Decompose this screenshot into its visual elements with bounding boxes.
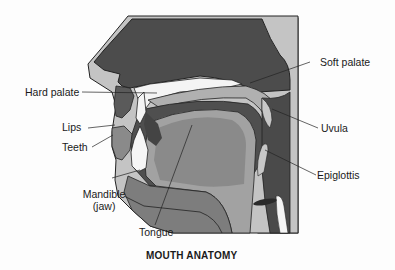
- label-uvula: Uvula: [321, 122, 348, 134]
- label-soft-palate: Soft palate: [320, 56, 370, 68]
- label-lips: Lips: [62, 121, 81, 133]
- tongue-body: [154, 117, 246, 186]
- label-tongue: Tongue: [139, 226, 173, 238]
- diagram-canvas: Hard palate Soft palate Lips Teeth Uvula…: [0, 0, 395, 270]
- label-hard-palate: Hard palate: [25, 86, 79, 98]
- label-mandible-text: Mandible: [76, 188, 132, 200]
- label-teeth: Teeth: [62, 141, 88, 153]
- diagram-title: MOUTH ANATOMY: [146, 250, 237, 261]
- mouth-cross-section-illustration: [0, 0, 395, 270]
- label-mandible: Mandible (jaw): [76, 188, 132, 212]
- label-epiglottis: Epiglottis: [317, 169, 360, 181]
- label-mandible-subtext: (jaw): [76, 200, 132, 212]
